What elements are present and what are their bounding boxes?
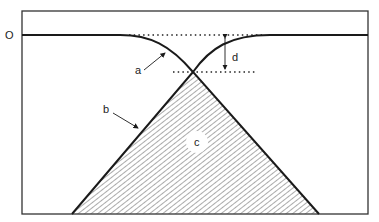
arrow-a bbox=[144, 53, 165, 70]
label-d: d bbox=[232, 51, 238, 63]
diagram-canvas: O a b c d bbox=[0, 0, 379, 222]
label-b: b bbox=[103, 103, 109, 115]
label-c: c bbox=[194, 136, 200, 148]
axis-zero-label: O bbox=[5, 29, 14, 41]
arrow-b bbox=[113, 113, 138, 128]
label-a: a bbox=[135, 64, 142, 76]
